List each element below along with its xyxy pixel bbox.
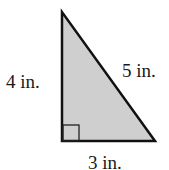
left-side-label: 4 in. [6, 71, 40, 92]
hypotenuse-label: 5 in. [122, 60, 156, 81]
right-triangle-diagram: 4 in. 5 in. 3 in. [0, 0, 169, 170]
bottom-side-label: 3 in. [88, 152, 122, 170]
